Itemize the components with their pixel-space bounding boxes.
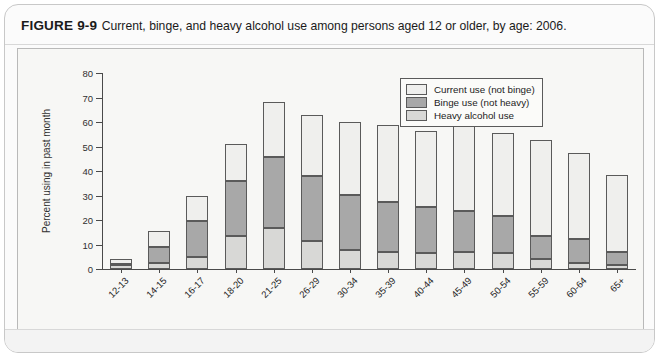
bar-segment-heavy bbox=[415, 253, 437, 269]
chart-legend: Current use (not binge)Binge use (not he… bbox=[400, 78, 543, 127]
bar-segment-heavy bbox=[492, 253, 514, 269]
chart-axes: Percent using in past month Age in years… bbox=[102, 73, 636, 269]
legend-item: Binge use (not heavy) bbox=[406, 96, 535, 109]
y-axis-tick-label: 60 bbox=[82, 117, 93, 128]
y-axis-tick-label: 20 bbox=[82, 215, 93, 226]
y-axis-tick-label: 50 bbox=[82, 141, 93, 152]
bar-stack bbox=[148, 73, 170, 269]
bar-segment-binge bbox=[492, 216, 514, 253]
legend-label: Binge use (not heavy) bbox=[434, 97, 529, 108]
x-axis-tick bbox=[503, 269, 504, 273]
y-axis-title: Percent using in past month bbox=[41, 109, 52, 233]
x-axis-tick bbox=[426, 269, 427, 273]
y-axis-tick-label: 70 bbox=[82, 92, 93, 103]
x-axis-tick-label: 12-13 bbox=[98, 275, 131, 308]
x-axis-tick-label: 35-39 bbox=[365, 275, 398, 308]
x-axis-tick-label: 40-44 bbox=[403, 275, 436, 308]
bar-segment-current bbox=[186, 196, 208, 220]
y-axis-tick bbox=[96, 196, 102, 197]
bar-segment-current bbox=[568, 153, 590, 239]
x-axis-tick bbox=[236, 269, 237, 273]
legend-item: Heavy alcohol use bbox=[406, 109, 535, 122]
bar-segment-current bbox=[453, 125, 475, 211]
bar-stack bbox=[263, 73, 285, 269]
y-axis-tick bbox=[96, 269, 102, 270]
bar-segment-binge bbox=[453, 211, 475, 252]
x-axis-tick bbox=[121, 269, 122, 273]
x-axis-tick bbox=[541, 269, 542, 273]
y-axis-tick-label: 10 bbox=[82, 239, 93, 250]
bar-segment-heavy bbox=[377, 252, 399, 269]
x-axis-tick-label: 50-54 bbox=[479, 275, 512, 308]
y-axis-tick bbox=[96, 73, 102, 74]
bar-segment-binge bbox=[148, 247, 170, 263]
x-axis-tick-label: 16-17 bbox=[174, 275, 207, 308]
y-axis-tick bbox=[96, 122, 102, 123]
figure-caption-text: Current, binge, and heavy alcohol use am… bbox=[102, 19, 567, 33]
x-axis-line bbox=[102, 269, 636, 270]
bar-segment-current bbox=[110, 259, 132, 264]
bar-segment-heavy bbox=[453, 252, 475, 269]
bar-segment-binge bbox=[186, 221, 208, 257]
legend-label: Heavy alcohol use bbox=[434, 110, 514, 121]
bar-segment-current bbox=[606, 175, 628, 251]
bar-segment-binge bbox=[225, 181, 247, 236]
bar-stack bbox=[377, 73, 399, 269]
bar-segment-binge bbox=[568, 239, 590, 263]
x-axis-tick bbox=[350, 269, 351, 273]
x-axis-tick-label: 21-25 bbox=[250, 275, 283, 308]
bar-segment-current bbox=[530, 140, 552, 236]
figure-number: FIGURE 9-9 bbox=[21, 18, 97, 33]
bar-segment-heavy bbox=[530, 259, 552, 269]
bar-segment-binge bbox=[377, 202, 399, 252]
x-axis-tick bbox=[159, 269, 160, 273]
x-axis-tick bbox=[464, 269, 465, 273]
legend-swatch bbox=[406, 84, 427, 95]
x-axis-tick bbox=[388, 269, 389, 273]
y-axis-tick bbox=[96, 245, 102, 246]
x-axis-tick-label: 45-49 bbox=[441, 275, 474, 308]
x-axis-tick-label: 14-15 bbox=[136, 275, 169, 308]
bar-segment-binge bbox=[530, 236, 552, 259]
bar-segment-binge bbox=[301, 176, 323, 241]
x-axis-tick-label: 60-64 bbox=[555, 275, 588, 308]
bar-segment-heavy bbox=[186, 257, 208, 269]
y-axis-tick bbox=[96, 171, 102, 172]
x-axis-tick-label: 18-20 bbox=[212, 275, 245, 308]
bar-stack bbox=[301, 73, 323, 269]
bar-segment-heavy bbox=[263, 228, 285, 269]
figure-card: FIGURE 9-9 Current, binge, and heavy alc… bbox=[4, 4, 655, 353]
y-axis-tick-label: 30 bbox=[82, 190, 93, 201]
bar-segment-current bbox=[148, 231, 170, 247]
y-axis-tick bbox=[96, 147, 102, 148]
x-axis-tick bbox=[579, 269, 580, 273]
bar-segment-binge bbox=[415, 207, 437, 253]
bar-segment-binge bbox=[606, 252, 628, 265]
x-axis-tick-label: 30-34 bbox=[326, 275, 359, 308]
legend-swatch bbox=[406, 110, 427, 121]
legend-label: Current use (not binge) bbox=[434, 84, 535, 95]
legend-swatch bbox=[406, 97, 427, 108]
bar-segment-heavy bbox=[339, 250, 361, 269]
bar-segment-current bbox=[263, 102, 285, 158]
bar-segment-current bbox=[225, 144, 247, 181]
y-axis-tick-label: 40 bbox=[82, 166, 93, 177]
x-axis-tick-label: 26-29 bbox=[288, 275, 321, 308]
bar-segment-current bbox=[415, 131, 437, 207]
bar-stack bbox=[110, 73, 132, 269]
bar-segment-heavy bbox=[301, 241, 323, 269]
bar-stack bbox=[339, 73, 361, 269]
y-axis-tick-label: 0 bbox=[88, 264, 93, 275]
bar-segment-current bbox=[301, 115, 323, 176]
y-axis-tick bbox=[96, 220, 102, 221]
x-axis-tick bbox=[197, 269, 198, 273]
bar-segment-current bbox=[492, 133, 514, 216]
figure-caption: FIGURE 9-9 Current, binge, and heavy alc… bbox=[5, 5, 654, 45]
chart-plot-area: Percent using in past month Age in years… bbox=[17, 48, 644, 330]
y-axis-line bbox=[102, 73, 103, 269]
bar-stack bbox=[606, 73, 628, 269]
figure-footer bbox=[5, 329, 654, 352]
bar-stack bbox=[568, 73, 590, 269]
bar-segment-binge bbox=[339, 195, 361, 250]
x-axis-tick bbox=[312, 269, 313, 273]
